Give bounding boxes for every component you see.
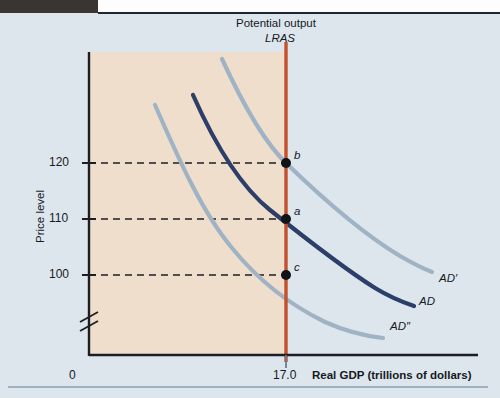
- y-tick-label-110: 110: [49, 212, 68, 226]
- potential-output-title: Potential output: [236, 17, 316, 30]
- curve-label-ad: AD: [419, 295, 435, 308]
- lras-label: LRAS: [265, 32, 295, 45]
- point-b-dot: [281, 158, 291, 168]
- point-label-a: a: [294, 205, 300, 218]
- x-origin-label: 0: [69, 369, 76, 383]
- figure-container: Potential output LRAS Price level 120 11…: [0, 0, 500, 398]
- point-label-c: c: [294, 261, 300, 274]
- y-tick-label-120: 120: [49, 156, 69, 170]
- point-a-dot: [281, 214, 291, 224]
- y-tick-label-100: 100: [49, 268, 69, 282]
- chart-svg: [0, 0, 500, 398]
- x-tick-label-17: 17.0: [273, 369, 296, 383]
- curve-label-ad-double-prime: AD″: [390, 320, 410, 333]
- x-axis-title: Real GDP (trillions of dollars): [312, 369, 472, 382]
- point-c-dot: [281, 270, 291, 280]
- y-axis-title: Price level: [34, 190, 46, 243]
- curve-ad-prime: [222, 59, 432, 272]
- point-label-b: b: [294, 149, 300, 162]
- curve-label-ad-prime: AD′: [439, 272, 457, 285]
